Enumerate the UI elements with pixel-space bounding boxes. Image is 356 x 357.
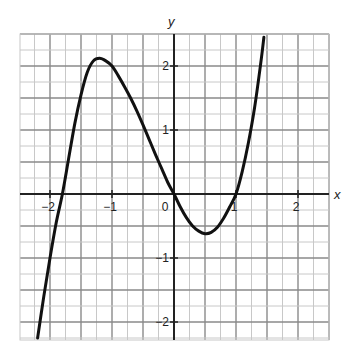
y-tick-label: 2: [162, 59, 169, 73]
x-tick-label: −2: [41, 200, 55, 214]
origin-label: 0: [162, 200, 169, 214]
y-tick-label: −1: [155, 251, 169, 265]
x-axis-label: x: [333, 187, 341, 202]
function-graph: −2−112−2−1120 x y: [0, 0, 356, 357]
y-tick-label: −2: [155, 315, 169, 329]
y-tick-label: 1: [162, 123, 169, 137]
x-tick-label: 2: [293, 200, 300, 214]
y-axis-label: y: [167, 14, 176, 29]
x-tick-label: −1: [103, 200, 117, 214]
